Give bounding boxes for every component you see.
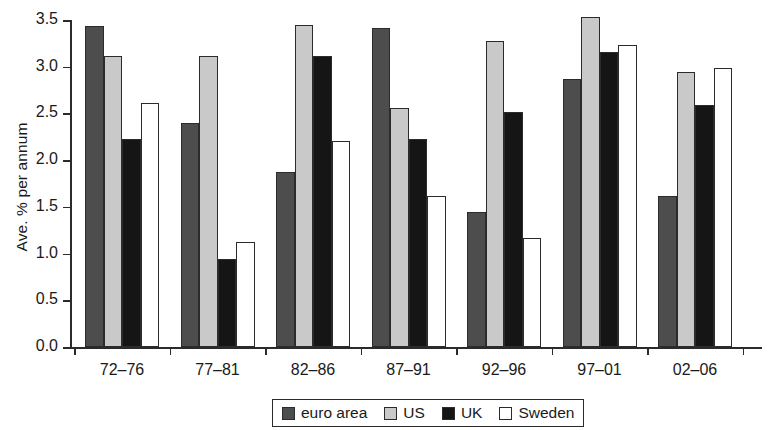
legend-entry: euro area: [282, 404, 367, 422]
bar: [581, 17, 600, 347]
y-axis-tick: [63, 254, 70, 256]
bar-chart-figure: Ave. % per annum 0.00.51.01.52.02.53.03.…: [0, 0, 781, 430]
x-axis-tick: [647, 347, 649, 355]
x-axis-tick: [743, 347, 745, 355]
bar: [563, 79, 582, 347]
bar: [276, 172, 295, 347]
bar: [677, 72, 696, 347]
x-axis-tick: [361, 347, 363, 355]
legend-swatch-icon: [282, 407, 295, 420]
y-axis-tick: [63, 20, 70, 22]
legend-label: US: [403, 404, 425, 422]
bar: [409, 139, 428, 347]
bar: [199, 56, 218, 347]
legend-swatch-icon: [499, 407, 512, 420]
y-axis-tick-label: 3.5: [0, 10, 58, 28]
y-axis-tick-label: 2.5: [0, 103, 58, 121]
bar: [523, 238, 542, 347]
bar: [372, 28, 391, 347]
bar: [504, 112, 523, 347]
bar: [427, 196, 446, 347]
x-axis-tick: [552, 347, 554, 355]
bar: [714, 68, 733, 347]
bar: [218, 259, 237, 347]
legend-label: euro area: [301, 404, 367, 422]
bar: [467, 212, 486, 347]
legend-entry: Sweden: [499, 404, 574, 422]
bar: [236, 242, 255, 347]
y-axis-tick: [63, 347, 70, 349]
bar: [600, 52, 619, 347]
x-axis-tick: [170, 347, 172, 355]
bar: [122, 139, 141, 347]
y-axis-tick-label: 1.5: [0, 197, 58, 215]
x-axis-tick-label: 02–06: [635, 361, 755, 379]
bar: [313, 56, 332, 347]
bar: [618, 45, 637, 347]
bar: [104, 56, 123, 347]
y-axis-line: [70, 20, 72, 347]
legend-entry: US: [384, 404, 425, 422]
y-axis-tick-label: 1.0: [0, 244, 58, 262]
y-axis-tick-label: 2.0: [0, 150, 58, 168]
bar: [141, 103, 160, 347]
y-axis-tick-label: 0.0: [0, 337, 58, 355]
y-axis-tick: [63, 207, 70, 209]
x-axis-tick: [456, 347, 458, 355]
y-axis-tick: [63, 160, 70, 162]
y-axis-tick: [63, 67, 70, 69]
bar: [390, 108, 409, 347]
legend-label: UK: [461, 404, 483, 422]
bar: [695, 105, 714, 347]
legend-entry: UK: [442, 404, 483, 422]
legend-swatch-icon: [442, 407, 455, 420]
x-axis-tick: [74, 347, 76, 355]
y-axis-tick: [63, 113, 70, 115]
x-axis-line: [70, 347, 762, 349]
legend-swatch-icon: [384, 407, 397, 420]
bar: [658, 196, 677, 347]
y-axis-tick: [63, 300, 70, 302]
bar: [332, 141, 351, 347]
chart-legend: euro areaUSUKSweden: [272, 399, 584, 427]
plot-area: 0.00.51.01.52.02.53.03.5 72–7677–8182–86…: [70, 20, 762, 347]
bar: [295, 25, 314, 347]
x-axis-tick: [265, 347, 267, 355]
bar: [85, 26, 104, 347]
y-axis-tick-label: 3.0: [0, 57, 58, 75]
bar: [486, 41, 505, 347]
legend-label: Sweden: [518, 404, 574, 422]
bar: [181, 123, 200, 347]
y-axis-tick-label: 0.5: [0, 290, 58, 308]
